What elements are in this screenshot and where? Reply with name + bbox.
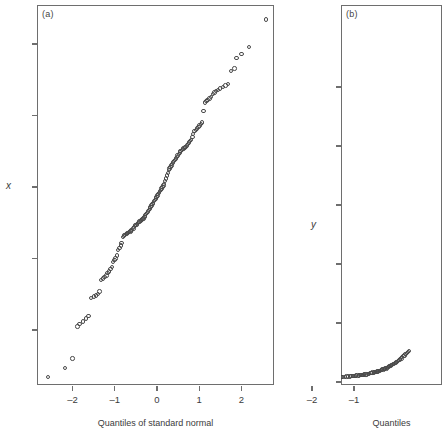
data-point [70,356,74,360]
data-point [200,120,204,124]
data-point [247,45,251,49]
panel-a-y-axis-title: x [6,180,11,191]
data-point [63,366,67,370]
x-tick-label: –2 [292,394,332,405]
x-tick-label: –2 [53,394,93,405]
data-point [46,375,50,379]
data-point [86,314,90,318]
data-point [201,109,205,113]
x-tick-mark [311,386,312,391]
x-tick-mark [199,386,200,391]
x-tick-label: –1 [95,394,135,405]
data-point [115,253,119,257]
x-tick-mark [156,386,157,391]
panel-a-data-points [37,5,274,385]
x-tick-mark [72,386,73,391]
data-point [119,241,123,245]
data-point [239,52,243,56]
x-tick-label: –1 [334,394,374,405]
data-point [110,265,114,269]
panel-b-y-axis-title: y [311,219,316,230]
x-tick-mark [353,386,354,391]
x-tick-mark [241,386,242,391]
x-tick-mark [114,386,115,391]
data-point [232,66,236,70]
data-point [407,349,411,353]
data-point [234,56,238,60]
panel-b-x-axis-title: Quantiles [341,418,442,428]
data-point [97,289,101,293]
qq-plot-figure: (a) x Quantiles of standard normal 210–1… [0,0,442,439]
data-point [264,17,268,21]
data-point [226,82,230,86]
x-tick-label: 2 [221,394,261,405]
panel-b-data-points [341,5,442,385]
x-tick-label: 1 [179,394,219,405]
x-tick-label: 0 [137,394,177,405]
panel-a-x-axis-title: Quantiles of standard normal [37,418,274,428]
